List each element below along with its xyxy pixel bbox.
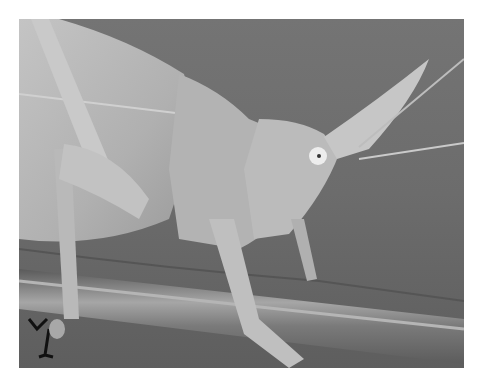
photo-illustration: [19, 19, 464, 368]
katydid-photo: [19, 19, 464, 368]
